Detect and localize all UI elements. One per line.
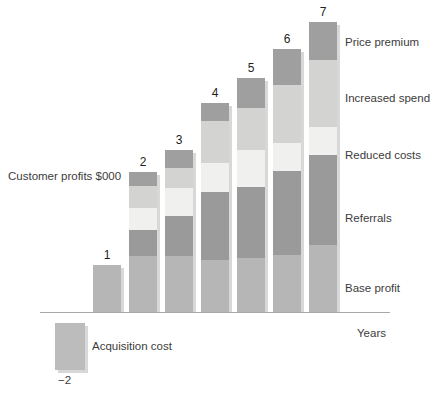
bar-label-7: 7 [309, 6, 337, 18]
bar-year-3 [165, 150, 193, 312]
bar-label-4: 4 [201, 87, 229, 99]
segment-reduced-costs [129, 208, 157, 230]
segment-price-premium [309, 22, 337, 60]
segment-base-profit [309, 245, 337, 312]
segment-base-profit [273, 255, 301, 312]
segment-base-profit [201, 260, 229, 312]
bar-label-5: 5 [237, 62, 265, 74]
segment-referrals [237, 187, 265, 258]
segment-referrals [309, 155, 337, 245]
x-axis-title: Years [357, 327, 386, 340]
bar-label-3: 3 [165, 134, 193, 146]
segment-increased-spend [129, 186, 157, 208]
legend-label-reduced-costs: Reduced costs [345, 149, 421, 162]
bar-year-1 [93, 265, 121, 312]
segment-reduced-costs [309, 127, 337, 155]
bar-year-4 [201, 103, 229, 312]
segment-base-profit [165, 256, 193, 312]
segment-price-premium [129, 172, 157, 186]
legend-label-base-profit: Base profit [345, 282, 400, 295]
segment-increased-spend [237, 108, 265, 150]
segment-referrals [201, 192, 229, 260]
segment-increased-spend [201, 121, 229, 163]
x-axis-line [40, 312, 390, 313]
segment-price-premium [237, 78, 265, 108]
bar-year-6 [273, 49, 301, 312]
bar-label-1: 1 [93, 249, 121, 261]
bar-label-6: 6 [273, 33, 301, 45]
segment-base-profit [237, 258, 265, 312]
segment-increased-spend [309, 60, 337, 127]
acquisition-cost-label: Acquisition cost [92, 340, 172, 353]
legend-label-price-premium: Price premium [345, 36, 419, 49]
segment-base-profit [93, 265, 121, 312]
segment-base-profit [129, 256, 157, 312]
customer-profits-stacked-bar-chart: 1 2 3 4 5 6 [0, 0, 441, 394]
segment-referrals [165, 216, 193, 256]
legend-label-referrals: Referrals [345, 212, 392, 225]
bar-year-2 [129, 172, 157, 312]
acquisition-cost-value: −2 [58, 374, 71, 387]
segment-increased-spend [165, 168, 193, 188]
segment-reduced-costs [201, 163, 229, 192]
segment-referrals [129, 230, 157, 256]
acquisition-cost-bar [55, 323, 85, 370]
y-axis-title: Customer profits $000 [8, 170, 121, 183]
segment-referrals [273, 171, 301, 255]
bar-year-5 [237, 78, 265, 312]
segment-price-premium [273, 49, 301, 85]
segment-price-premium [165, 150, 193, 168]
segment-reduced-costs [237, 150, 265, 187]
bar-year-7 [309, 22, 337, 312]
segment-price-premium [201, 103, 229, 121]
segment-reduced-costs [165, 188, 193, 216]
segment-reduced-costs [273, 143, 301, 171]
bar-label-2: 2 [129, 156, 157, 168]
segment-increased-spend [273, 85, 301, 143]
legend-label-increased-spend: Increased spend [345, 92, 430, 105]
